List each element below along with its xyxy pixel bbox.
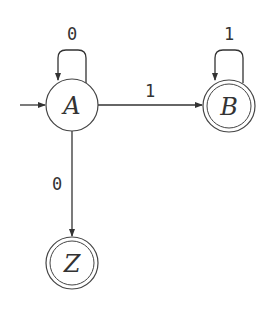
state-z-label: Z xyxy=(63,250,82,278)
self-loop-b xyxy=(215,50,243,83)
state-b: B xyxy=(203,80,255,132)
self-loop-a xyxy=(58,50,86,83)
dfa-diagram: 0 1 1 0 A B Z xyxy=(0,0,264,311)
state-b-label: B xyxy=(219,93,238,121)
state-a: A xyxy=(46,79,98,131)
state-a-label: A xyxy=(61,92,80,120)
transition-a-to-b-label: 1 xyxy=(145,81,155,101)
state-z: Z xyxy=(46,237,98,289)
transition-a-to-z-label: 0 xyxy=(52,174,62,194)
self-loop-b-label: 1 xyxy=(224,24,234,44)
self-loop-a-label: 0 xyxy=(67,24,77,44)
